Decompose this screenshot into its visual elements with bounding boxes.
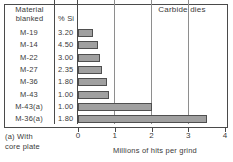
row-si-value: 1.00 [58, 101, 77, 113]
bar-chart-figure: Material blanked % Si Carbide dies M-193… [0, 0, 233, 162]
table-row: M-36(a)1.80 [0, 113, 233, 125]
x-tick-label: 1 [107, 131, 123, 141]
column-header-si: % Si [56, 14, 78, 23]
row-material-label: M-43(a) [4, 101, 54, 113]
bar [78, 29, 93, 37]
table-row: M-43(a)1.00 [0, 101, 233, 113]
row-material-label: M-22 [4, 52, 54, 64]
row-material-label: M-14 [4, 39, 54, 51]
bar [78, 78, 107, 86]
bar [78, 91, 109, 99]
table-row: M-223.00 [0, 52, 233, 64]
x-tick-label: 3 [180, 131, 196, 141]
table-row: M-272.35 [0, 64, 233, 76]
row-material-label: M-27 [4, 64, 54, 76]
table-row: M-144.50 [0, 39, 233, 51]
table-row: M-361.80 [0, 76, 233, 88]
bar [78, 41, 98, 49]
row-material-label: M-19 [4, 27, 54, 39]
row-si-value: 1.80 [58, 113, 77, 125]
x-axis-line [4, 127, 228, 128]
table-row: M-431.00 [0, 89, 233, 101]
footnote: (a) With core plate [5, 132, 75, 151]
row-material-label: M-36 [4, 76, 54, 88]
bar [78, 54, 100, 62]
chart-title: Carbide dies [140, 5, 224, 14]
row-si-value: 3.00 [58, 52, 77, 64]
row-material-label: M-43 [4, 89, 54, 101]
row-si-value: 4.50 [58, 39, 77, 51]
column-header-material: Material blanked [5, 5, 54, 23]
bar [78, 103, 152, 111]
row-si-value: 3.20 [58, 27, 77, 39]
x-tick-label: 4 [217, 131, 233, 141]
row-material-label: M-36(a) [4, 113, 54, 125]
bar [78, 115, 207, 123]
row-si-value: 1.80 [58, 76, 77, 88]
x-axis-label: Millions of hits per grind [80, 146, 230, 155]
x-tick-label: 2 [144, 131, 160, 141]
row-si-value: 1.00 [58, 89, 77, 101]
row-si-value: 2.35 [58, 64, 77, 76]
bar [78, 66, 102, 74]
table-row: M-193.20 [0, 27, 233, 39]
